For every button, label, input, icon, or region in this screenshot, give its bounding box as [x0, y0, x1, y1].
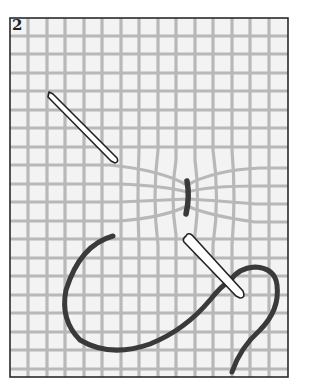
canvas-drawing	[0, 0, 315, 390]
stitch-mark	[186, 181, 188, 214]
figure-number: 2	[12, 18, 22, 33]
stitching-illustration: 2	[0, 0, 315, 390]
